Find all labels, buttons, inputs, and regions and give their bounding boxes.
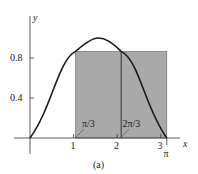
chart-figure: y x 0.8 0.4 1 2 3 π/3 2π/3 π (a) <box>0 0 198 174</box>
figure-caption: (a) <box>93 159 104 171</box>
x-tick-label-1: 1 <box>71 140 76 151</box>
y-axis-label: y <box>32 12 38 23</box>
y-tick-label-0.8: 0.8 <box>10 52 23 63</box>
x-tick-label-3: 3 <box>158 140 163 151</box>
annotation-pi: π <box>164 148 169 159</box>
annotation-pi-over-3: π/3 <box>82 118 95 129</box>
annotation-2pi-over-3: 2π/3 <box>123 118 141 129</box>
x-tick-label-2: 2 <box>114 140 119 151</box>
x-axis-label: x <box>182 138 188 149</box>
y-tick-label-0.4: 0.4 <box>10 92 23 103</box>
